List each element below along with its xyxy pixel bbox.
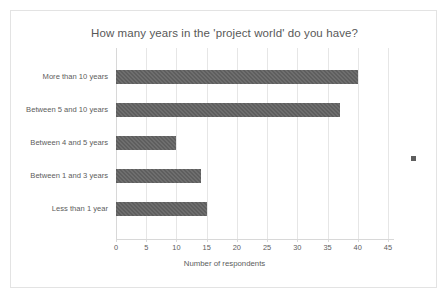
x-tick-mark — [297, 239, 298, 242]
bar[interactable] — [116, 169, 201, 183]
bar[interactable] — [116, 136, 176, 150]
x-tick-label: 20 — [225, 243, 249, 252]
bar[interactable] — [116, 103, 340, 117]
x-tick-label: 15 — [195, 243, 219, 252]
chart-frame: How many years in the 'project world' do… — [10, 10, 437, 288]
legend-marker-icon — [411, 156, 416, 161]
bar-fill — [116, 136, 176, 150]
x-tick-label: 0 — [104, 243, 128, 252]
x-tick-mark — [388, 239, 389, 242]
category-label: More than 10 years — [0, 72, 108, 82]
x-tick-mark — [237, 239, 238, 242]
x-tick-mark — [328, 239, 329, 242]
x-tick-label: 40 — [346, 243, 370, 252]
category-label: Between 4 and 5 years — [0, 138, 108, 148]
x-tick-label: 45 — [376, 243, 400, 252]
plot-area — [116, 48, 394, 239]
x-tick-mark — [176, 239, 177, 242]
x-tick-mark — [146, 239, 147, 242]
x-tick-label: 25 — [255, 243, 279, 252]
x-tick-mark — [267, 239, 268, 242]
bar-fill — [116, 103, 340, 117]
x-axis-title: Number of respondents — [11, 259, 438, 268]
x-tick-mark — [116, 239, 117, 242]
gridline — [388, 48, 389, 239]
chart-title: How many years in the 'project world' do… — [11, 27, 438, 39]
category-label: Between 5 and 10 years — [0, 105, 108, 115]
gridline — [358, 48, 359, 239]
x-tick-label: 5 — [134, 243, 158, 252]
category-label: Less than 1 year — [0, 204, 108, 214]
bar-fill — [116, 202, 207, 216]
bar[interactable] — [116, 70, 358, 84]
x-tick-label: 10 — [164, 243, 188, 252]
x-tick-mark — [358, 239, 359, 242]
category-label: Between 1 and 3 years — [0, 171, 108, 181]
x-tick-label: 35 — [316, 243, 340, 252]
bar-fill — [116, 70, 358, 84]
x-axis-line — [116, 239, 394, 240]
bar[interactable] — [116, 202, 207, 216]
bar-fill — [116, 169, 201, 183]
x-tick-mark — [207, 239, 208, 242]
x-tick-label: 30 — [285, 243, 309, 252]
